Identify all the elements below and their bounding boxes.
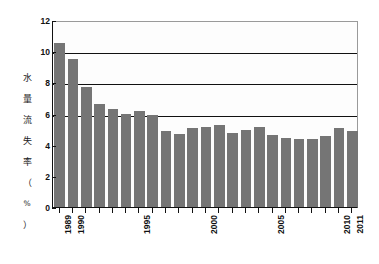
bar <box>68 59 79 207</box>
y-axis-tick-label: 6 <box>34 110 50 120</box>
bar <box>214 125 225 207</box>
y-axis-tick-mark <box>52 115 56 116</box>
x-axis-tick-mark <box>99 208 100 213</box>
x-axis-tick-mark <box>298 208 299 213</box>
x-axis-tick-label: 2010 <box>342 215 352 234</box>
bar <box>161 131 172 207</box>
x-axis-tick-mark <box>205 208 206 213</box>
x-axis-tick-mark <box>272 208 273 213</box>
x-axis-tick-mark <box>178 208 179 213</box>
y-axis-tick-label: 4 <box>34 141 50 151</box>
y-axis-tick-mark <box>52 177 56 178</box>
bar <box>201 127 212 207</box>
y-axis-tick-label: 0 <box>34 203 50 213</box>
bar <box>121 114 132 208</box>
bar <box>347 131 358 207</box>
x-axis-tick-mark <box>192 208 193 213</box>
bar <box>187 128 198 207</box>
x-axis-tick-mark <box>245 208 246 213</box>
x-axis-tick-mark <box>311 208 312 213</box>
x-axis-tick-mark <box>125 208 126 213</box>
y-axis-tick-mark <box>52 52 56 53</box>
x-axis-tick-mark <box>351 208 352 213</box>
x-axis-tick-mark <box>285 208 286 213</box>
bar <box>334 128 345 207</box>
x-axis-tick-mark <box>218 208 219 213</box>
x-axis-tick-mark <box>232 208 233 213</box>
y-axis-tick-mark <box>52 21 56 22</box>
y-axis-tick-label: 12 <box>34 16 50 26</box>
bar <box>81 87 92 207</box>
bar <box>227 133 238 207</box>
y-axis-tick-mark <box>52 146 56 147</box>
x-axis-tick-mark <box>325 208 326 213</box>
x-axis-tick-mark <box>112 208 113 213</box>
bar <box>281 138 292 207</box>
y-axis-tick-label: 2 <box>34 172 50 182</box>
bars-layer <box>53 22 357 207</box>
x-axis-tick-mark <box>59 208 60 213</box>
y-axis-tick-labels: 024681012 <box>28 0 50 264</box>
y-axis-tick-label: 8 <box>34 78 50 88</box>
x-axis-tick-mark <box>338 208 339 213</box>
bar <box>320 136 331 207</box>
x-axis-tick-mark <box>72 208 73 213</box>
x-axis-tick-label: 2000 <box>209 215 219 234</box>
bar <box>267 135 278 207</box>
plot-area <box>52 21 358 208</box>
y-axis-tick-mark <box>52 208 56 209</box>
x-axis-tick-mark <box>85 208 86 213</box>
bar <box>294 139 305 207</box>
x-axis-tick-mark <box>138 208 139 213</box>
y-axis-tick-mark <box>52 83 56 84</box>
bar <box>174 134 185 207</box>
x-axis-tick-label: 2011 <box>355 215 365 233</box>
x-axis-tick-mark <box>152 208 153 213</box>
bar-chart-figure: 水 量 流 失 率 （ % ） 024681012 19891990199520… <box>0 0 379 264</box>
bar <box>134 111 145 207</box>
x-axis-tick-mark <box>258 208 259 213</box>
bar <box>254 127 265 207</box>
x-axis-tick-label: 1995 <box>142 215 152 234</box>
bar <box>108 109 119 207</box>
bar <box>147 115 158 207</box>
x-axis-tick-label: 1989 <box>63 215 73 234</box>
x-axis-tick-mark <box>165 208 166 213</box>
bar <box>54 43 65 207</box>
x-axis-tick-label: 1990 <box>76 215 86 234</box>
bar <box>241 130 252 207</box>
y-axis-tick-label: 10 <box>34 47 50 57</box>
bar <box>94 104 105 207</box>
bar <box>307 139 318 207</box>
x-axis-tick-label: 2005 <box>276 215 286 234</box>
